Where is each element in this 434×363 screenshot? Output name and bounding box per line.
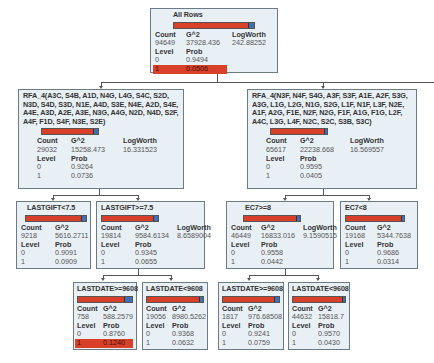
level-label: Level xyxy=(21,241,51,250)
prob-bar xyxy=(25,215,87,222)
tree-node-root[interactable]: All Rows Count G^2 LogWorth 94649 37928.… xyxy=(150,8,278,73)
prob-value: 0.0314 xyxy=(377,258,417,267)
prob-bar xyxy=(222,296,280,303)
tree-node-ec7-lt[interactable]: EC7<8 Count G^2 19168 5344.7638 Level Pr… xyxy=(340,201,418,269)
level-label: Level xyxy=(155,48,182,57)
tree-node-lastgift-ge[interactable]: LASTGIFT>=7.5 Count G^2 LogWorth 19814 9… xyxy=(96,201,205,269)
level-value: 1 xyxy=(146,339,170,348)
arrow-icon xyxy=(101,278,105,281)
tree-node-ec7-ge[interactable]: EC7>=8 Count G^2 LogWorth 46449 16833.01… xyxy=(226,201,334,269)
prob-bar xyxy=(173,22,255,29)
prob-bar xyxy=(345,215,405,222)
tree-node-lastdate-ge-right[interactable]: LASTDATE>=9608 Count G^2 1817 976.68508 … xyxy=(218,282,284,350)
level-label: Level xyxy=(345,241,373,250)
prob-value: 0.0909 xyxy=(55,258,93,267)
prob-value: 0.0430 xyxy=(318,339,348,348)
level-label: Level xyxy=(37,155,67,164)
prob-bar xyxy=(146,296,204,303)
prob-bar xyxy=(243,215,301,222)
prob-value: 0.0405 xyxy=(300,172,346,181)
prob-bar xyxy=(41,128,99,135)
node-title: LASTDATE>=9608 xyxy=(77,285,133,294)
node-title: LASTDATE>=9608 xyxy=(222,285,280,294)
level-value: 1 xyxy=(101,258,131,267)
tree-node-rfa4-right[interactable]: RFA_4(N3F, N4F, S4G, A3F, S3F, A1E, A2F,… xyxy=(247,89,417,189)
arrow-icon xyxy=(169,278,173,281)
node-title: RFA_4(A3C, S4B, A1D, N4G, L4G, S4C, S2D,… xyxy=(23,92,179,126)
prob-value: 0.1240 xyxy=(103,339,135,348)
level-value: 1 xyxy=(155,65,182,74)
level-value: 1 xyxy=(21,258,51,267)
level-label: Level xyxy=(101,241,131,250)
level-value: 0 xyxy=(155,56,182,65)
node-title: EC7>=8 xyxy=(231,204,329,213)
connector xyxy=(103,275,172,276)
prob-value: 0.0655 xyxy=(135,258,173,267)
level-value: 1 xyxy=(77,339,101,348)
level-label: Level xyxy=(266,155,296,164)
tree-node-lastdate-lt-right[interactable]: LASTDATE<9608 Count G^2 44632 15818.7 Le… xyxy=(288,282,350,350)
prob-bar xyxy=(77,296,133,303)
connector xyxy=(285,195,370,196)
level-value: 1 xyxy=(345,258,373,267)
level-value: 0 xyxy=(266,163,296,172)
tree-node-rfa4-left[interactable]: RFA_4(A3C, S4B, A1D, N4G, L4G, S4C, S2D,… xyxy=(18,89,184,189)
tree-node-lastdate-ge-left[interactable]: LASTDATE>=9608 Count G^2 758 588.2579 Le… xyxy=(73,282,137,350)
node-title: LASTDATE<9608 xyxy=(146,285,204,294)
prob-bar xyxy=(270,128,328,135)
level-value: 1 xyxy=(292,339,316,348)
logworth-value: 16.569557 xyxy=(350,146,410,155)
node-title: LASTDATE<9608 xyxy=(292,285,346,294)
logworth-value: 16.331523 xyxy=(123,146,183,155)
arrow-icon xyxy=(247,278,251,281)
prob-value: 0.0736 xyxy=(71,172,119,181)
node-title: LASTGIFT>=7.5 xyxy=(101,204,200,213)
node-title: RFA_4(N3F, N4F, S4G, A3F, S3F, A1E, A2F,… xyxy=(252,92,412,126)
connector xyxy=(249,275,319,276)
tree-node-lastdate-lt-left[interactable]: LASTDATE<9608 Count G^2 19056 8980.5262 … xyxy=(142,282,208,350)
tree-node-lastgift-lt[interactable]: LASTGIFT<7.5 Count G^2 9218 5616.2711 Le… xyxy=(16,201,91,269)
node-title: EC7<8 xyxy=(345,204,413,213)
level-value: 1 xyxy=(266,172,296,181)
logworth-value: 9.1590515 xyxy=(303,232,343,241)
level-value: 1 xyxy=(231,258,257,267)
level-value: 1 xyxy=(37,172,67,181)
logworth-value: 8.6589004 xyxy=(177,232,213,241)
logworth-value: 242.88252 xyxy=(232,39,282,48)
prob-value: 0.0632 xyxy=(172,339,206,348)
prob-value: 0.0506 xyxy=(186,65,228,74)
prob-bar xyxy=(101,215,159,222)
connector xyxy=(101,82,434,83)
node-title: All Rows xyxy=(155,11,273,20)
level-value: 0 xyxy=(345,249,373,258)
node-title: LASTGIFT<7.5 xyxy=(21,204,86,213)
prob-value: 0.0442 xyxy=(261,258,299,267)
level-value: 0 xyxy=(37,163,67,172)
connector xyxy=(53,195,139,196)
level-value: 0 xyxy=(21,249,51,258)
arrow-icon xyxy=(316,278,320,281)
level-value: 1 xyxy=(222,339,246,348)
prob-value: 0.0759 xyxy=(248,339,282,348)
level-value: 0 xyxy=(101,249,131,258)
prob-bar xyxy=(292,296,346,303)
